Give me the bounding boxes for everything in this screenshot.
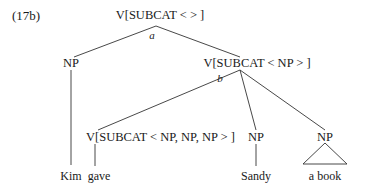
example-label: (17b)	[12, 9, 40, 22]
edge-vp-np-sandy	[240, 70, 256, 130]
verb-node: V[SUBCAT < NP, NP, NP > ]	[86, 131, 235, 144]
triangle-a-book	[303, 143, 347, 164]
word-gave: gave	[88, 170, 111, 182]
edge-vp-np-book	[240, 70, 325, 130]
vp-node: V[SUBCAT < NP > ]	[203, 57, 310, 70]
word-a-book: a book	[309, 170, 341, 182]
edge-root-vp	[156, 26, 240, 57]
word-sandy: Sandy	[241, 170, 271, 182]
root-node: V[SUBCAT < > ]	[116, 9, 205, 22]
edge-tag-b: b	[217, 73, 223, 84]
object2-np-node: NP	[317, 131, 333, 144]
tree-edges	[0, 0, 374, 193]
subject-np-node: NP	[63, 57, 79, 70]
edge-tag-a: a	[149, 30, 155, 41]
edge-root-np	[74, 26, 156, 57]
word-kim: Kim	[60, 170, 81, 182]
object1-np-node: NP	[248, 131, 264, 144]
